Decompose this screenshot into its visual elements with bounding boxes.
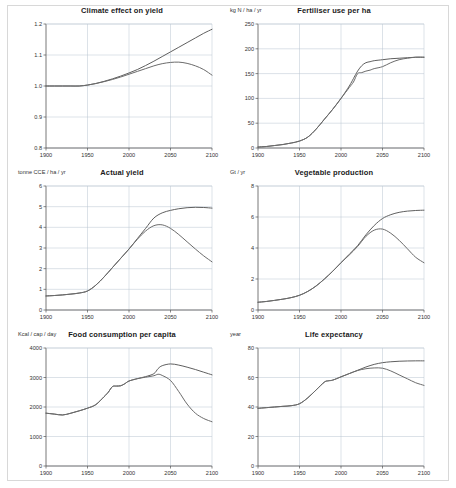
y-tick-label: 2: [251, 276, 254, 282]
x-tick-label: 2000: [335, 152, 347, 158]
chart-plot-life-expectancy: 02040608019001950200020502100: [228, 330, 440, 482]
x-tick-label: 1900: [40, 470, 52, 476]
chart-panel-fertiliser-use-per-ha: Fertiliser use per hakg N / ha / yr05010…: [228, 6, 440, 164]
chart-panel-food-consumption-per-capita: Food consumption per capitaKcal / cap / …: [16, 330, 228, 482]
y-tick-label: 2000: [30, 404, 42, 410]
y-tick-label: 1.2: [34, 21, 42, 27]
x-tick-label: 1900: [40, 314, 52, 320]
x-tick-label: 1900: [252, 314, 264, 320]
y-tick-label: 200: [245, 46, 254, 52]
y-tick-label: 1.1: [34, 52, 42, 58]
x-tick-label: 1950: [293, 152, 305, 158]
y-tick-label: 4: [251, 245, 254, 251]
x-tick-label: 2100: [206, 314, 218, 320]
x-tick-label: 1900: [252, 152, 264, 158]
y-tick-label: 150: [245, 71, 254, 77]
x-tick-label: 1900: [40, 152, 52, 158]
y-tick-label: 250: [245, 21, 254, 27]
chart-panel-actual-yield: Actual yieldtonne CCE / ha / yr012345619…: [16, 168, 228, 326]
y-tick-label: 0.9: [34, 114, 42, 120]
chart-panel-climate-effect-on-yield: Climate effect on yield0.80.91.01.11.219…: [16, 6, 228, 164]
x-tick-label: 2000: [123, 152, 135, 158]
x-tick-label: 2000: [335, 314, 347, 320]
chart-panel-life-expectancy: Life expectancyyear020406080190019502000…: [228, 330, 440, 482]
x-tick-label: 2050: [376, 314, 388, 320]
y-tick-label: 3: [39, 245, 42, 251]
x-tick-label: 1950: [81, 470, 93, 476]
x-tick-label: 1950: [81, 314, 93, 320]
y-tick-label: 50: [248, 120, 254, 126]
x-tick-label: 2000: [123, 314, 135, 320]
y-tick-label: 4000: [30, 345, 42, 351]
chart-plot-fertiliser-use-per-ha: 05010015020025019001950200020502100: [228, 6, 440, 164]
y-tick-label: 5: [39, 204, 42, 210]
y-tick-label: 60: [248, 375, 254, 381]
y-tick-label: 80: [248, 345, 254, 351]
figure-page: Climate effect on yield0.80.91.01.11.219…: [0, 0, 456, 488]
y-tick-label: 6: [251, 214, 254, 220]
x-tick-label: 1900: [252, 470, 264, 476]
chart-plot-climate-effect-on-yield: 0.80.91.01.11.219001950200020502100: [16, 6, 228, 164]
x-tick-label: 2000: [335, 470, 347, 476]
y-tick-label: 0: [251, 145, 254, 151]
chart-plot-food-consumption-per-capita: 0100020003000400019001950200020502100: [16, 330, 228, 482]
y-tick-label: 2: [39, 266, 42, 272]
x-tick-label: 1950: [81, 152, 93, 158]
y-tick-label: 3000: [30, 375, 42, 381]
y-tick-label: 6: [39, 183, 42, 189]
y-tick-label: 8: [251, 183, 254, 189]
x-tick-label: 2100: [418, 314, 430, 320]
x-tick-label: 2100: [418, 470, 430, 476]
y-tick-label: 20: [248, 434, 254, 440]
y-tick-label: 1: [39, 286, 42, 292]
y-tick-label: 4: [39, 224, 42, 230]
x-tick-label: 2000: [123, 470, 135, 476]
y-tick-label: 0: [251, 463, 254, 469]
y-tick-label: 1000: [30, 434, 42, 440]
y-tick-label: 0: [39, 463, 42, 469]
x-tick-label: 2050: [376, 152, 388, 158]
y-tick-label: 1.0: [34, 83, 42, 89]
y-tick-label: 0: [39, 307, 42, 313]
chart-grid: Climate effect on yield0.80.91.01.11.219…: [0, 0, 456, 488]
chart-panel-vegetable-production: Vegetable productionGt / yr0246819001950…: [228, 168, 440, 326]
x-tick-label: 2050: [164, 314, 176, 320]
x-tick-label: 1950: [293, 470, 305, 476]
x-tick-label: 2100: [418, 152, 430, 158]
x-tick-label: 1950: [293, 314, 305, 320]
y-tick-label: 0: [251, 307, 254, 313]
chart-plot-vegetable-production: 0246819001950200020502100: [228, 168, 440, 326]
x-tick-label: 2100: [206, 152, 218, 158]
x-tick-label: 2100: [206, 470, 218, 476]
y-tick-label: 40: [248, 404, 254, 410]
x-tick-label: 2050: [164, 470, 176, 476]
chart-plot-actual-yield: 012345619001950200020502100: [16, 168, 228, 326]
y-tick-label: 100: [245, 95, 254, 101]
x-tick-label: 2050: [376, 470, 388, 476]
y-tick-label: 0.8: [34, 145, 42, 151]
x-tick-label: 2050: [164, 152, 176, 158]
